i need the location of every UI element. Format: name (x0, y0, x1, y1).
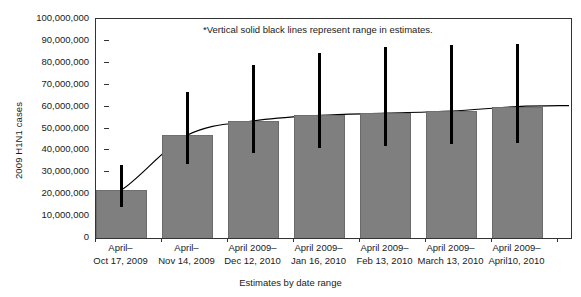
y-axis-tick-label: 80,000,000 (19, 57, 89, 67)
error-bar (252, 65, 254, 153)
y-axis-tick-label: 50,000,000 (19, 123, 89, 133)
plot-inner: *Vertical solid black lines represent ra… (96, 19, 571, 238)
error-bar (450, 45, 452, 144)
y-axis-tick-labels: 100,000,00090,000,00080,000,00070,000,00… (15, 0, 89, 297)
error-bar (384, 47, 386, 146)
y-axis-tick-label: 20,000,000 (19, 188, 89, 198)
x-axis-tick-mark (95, 238, 96, 242)
y-axis-tick-label: 100,000,000 (19, 13, 89, 23)
y-axis-tick-label: 30,000,000 (19, 166, 89, 176)
error-bar (318, 53, 320, 148)
error-bar (120, 165, 122, 208)
x-axis-tick-label: April 2009–April10, 2010 (477, 242, 557, 267)
error-bar (186, 92, 188, 163)
x-axis-title: Estimates by date range (0, 277, 581, 288)
error-bar (516, 44, 518, 143)
x-axis-tick-labels: April–Oct 17, 2009April–Nov 14, 2009Apri… (95, 242, 581, 272)
x-axis-tick-mark (491, 238, 492, 242)
y-axis-tick-label: 40,000,000 (19, 144, 89, 154)
x-axis-tick-mark (359, 238, 360, 242)
x-axis-tick-mark (293, 238, 294, 242)
x-axis-tick-mark (227, 238, 228, 242)
y-axis-tick-label: 90,000,000 (19, 35, 89, 45)
y-axis-tick-label: 70,000,000 (19, 79, 89, 89)
y-axis-tick-label: 0 (19, 232, 89, 242)
plot-area: *Vertical solid black lines represent ra… (95, 18, 572, 239)
x-axis-tick-mark (161, 238, 162, 242)
y-axis-tick-label: 10,000,000 (19, 210, 89, 220)
chart-container: 2009 H1N1 cases 100,000,00090,000,00080,… (0, 0, 581, 297)
x-axis-tick-mark (425, 238, 426, 242)
y-axis-tick-label: 60,000,000 (19, 101, 89, 111)
x-axis-tick-mark (557, 238, 558, 242)
